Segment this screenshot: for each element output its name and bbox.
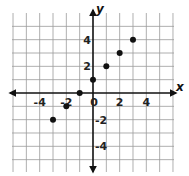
- data-point: [130, 37, 136, 43]
- data-point: [117, 50, 123, 56]
- data-point: [50, 117, 56, 123]
- x-tick-label: 0: [90, 96, 98, 109]
- x-tick-label: 2: [116, 96, 124, 109]
- data-point: [77, 90, 83, 96]
- y-tick-label: 2: [83, 60, 91, 73]
- x-axis-label: x: [175, 80, 185, 94]
- data-point: [90, 77, 96, 83]
- x-tick-label: -4: [34, 96, 47, 109]
- y-tick-label: -4: [95, 140, 108, 153]
- x-tick-label: 4: [142, 96, 150, 109]
- data-point: [63, 103, 69, 109]
- data-point: [103, 63, 109, 69]
- y-tick-label: 4: [83, 34, 91, 47]
- y-tick-label: -2: [95, 114, 107, 127]
- y-axis-label: y: [96, 2, 105, 16]
- coordinate-plane: x y -4-202442-2-4: [0, 0, 189, 176]
